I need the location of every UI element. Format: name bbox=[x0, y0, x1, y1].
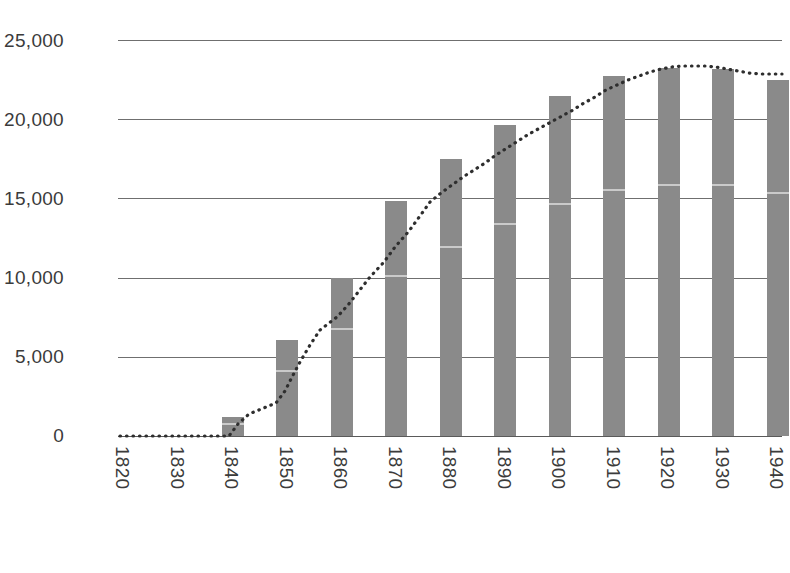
chart-container: 25,000 20,000 15,000 10,000 5,000 0 bbox=[0, 0, 790, 573]
bar-highlight bbox=[440, 246, 462, 248]
x-axis-tick-label: 1850 bbox=[275, 446, 297, 489]
bar-highlight bbox=[658, 184, 680, 186]
bar-1850 bbox=[276, 340, 298, 436]
y-axis-tick-label: 10,000 bbox=[0, 267, 64, 289]
bar-highlight bbox=[222, 423, 244, 425]
bar-1840 bbox=[222, 417, 244, 436]
bar-1940 bbox=[767, 80, 789, 436]
bar-highlight bbox=[603, 189, 625, 191]
x-axis-tick-label: 1910 bbox=[602, 446, 624, 489]
y-axis-tick-label: 5,000 bbox=[0, 346, 64, 368]
x-axis-tick-label: 1900 bbox=[547, 446, 569, 489]
y-axis-tick-label: 15,000 bbox=[0, 188, 64, 210]
bar-1880 bbox=[440, 159, 462, 436]
bar-1860 bbox=[331, 278, 353, 436]
x-axis-tick-label: 1820 bbox=[111, 446, 133, 489]
y-axis-tick-label: 20,000 bbox=[0, 109, 64, 131]
bar-highlight bbox=[712, 184, 734, 186]
bar-1870 bbox=[385, 201, 407, 436]
gridline-25000 bbox=[118, 40, 782, 41]
bar-highlight bbox=[331, 328, 353, 330]
x-axis-tick-label: 1940 bbox=[765, 446, 787, 489]
bar-highlight bbox=[767, 192, 789, 194]
plot-area bbox=[118, 40, 782, 436]
x-axis-tick-label: 1840 bbox=[220, 446, 242, 489]
bar-1910 bbox=[603, 76, 625, 436]
bar-1930 bbox=[712, 69, 734, 436]
y-axis-tick-label: 25,000 bbox=[0, 30, 64, 52]
y-axis-tick-label: 0 bbox=[0, 425, 64, 447]
bar-highlight bbox=[276, 370, 298, 372]
bar-highlight bbox=[494, 223, 516, 225]
bar-highlight bbox=[385, 275, 407, 277]
x-axis-tick-label: 1870 bbox=[384, 446, 406, 489]
x-axis-tick-label: 1880 bbox=[438, 446, 460, 489]
bar-highlight bbox=[549, 203, 571, 205]
bar-1920 bbox=[658, 68, 680, 436]
bar-1890 bbox=[494, 125, 516, 436]
x-axis-tick-label: 1860 bbox=[329, 446, 351, 489]
x-axis-tick-label: 1830 bbox=[166, 446, 188, 489]
gridline-20000 bbox=[118, 119, 782, 120]
x-axis-tick-label: 1930 bbox=[711, 446, 733, 489]
x-axis-tick-label: 1890 bbox=[493, 446, 515, 489]
bar-1900 bbox=[549, 96, 571, 436]
x-axis-line bbox=[118, 436, 782, 437]
x-axis-tick-label: 1920 bbox=[656, 446, 678, 489]
